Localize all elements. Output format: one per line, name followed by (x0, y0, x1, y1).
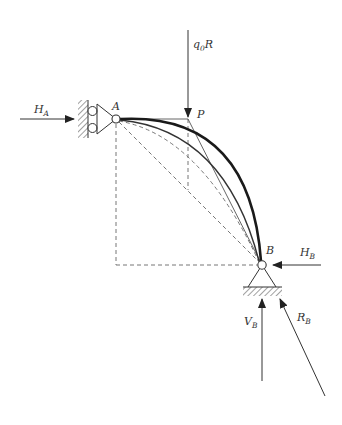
label-load: q0R (193, 38, 213, 53)
ground-hatch (243, 287, 282, 296)
label-v-b: VB (244, 315, 258, 330)
roller-wall-support-a (78, 100, 116, 138)
label-r-b: RB (296, 311, 311, 326)
wall-hatch (78, 100, 88, 138)
roller-bottom (88, 124, 97, 133)
line-p-b (188, 119, 260, 261)
label-b: B (265, 244, 274, 257)
label-h-a: HA (33, 103, 50, 118)
tangent-lines (120, 119, 260, 261)
thick-arch-curve (120, 119, 261, 261)
pin-b (258, 261, 266, 269)
construction-lines (116, 119, 259, 265)
force-arrows (20, 30, 325, 396)
label-p: P (196, 108, 205, 121)
label-h-b: HB (299, 246, 316, 261)
arch-diagram: q0R A P B HA HB VB RB (0, 0, 342, 425)
dashed-chord-ab (119, 122, 259, 262)
roller-top (88, 107, 97, 116)
label-a: A (111, 100, 120, 113)
pin-a (112, 115, 120, 123)
thin-arch-curve (120, 120, 259, 261)
